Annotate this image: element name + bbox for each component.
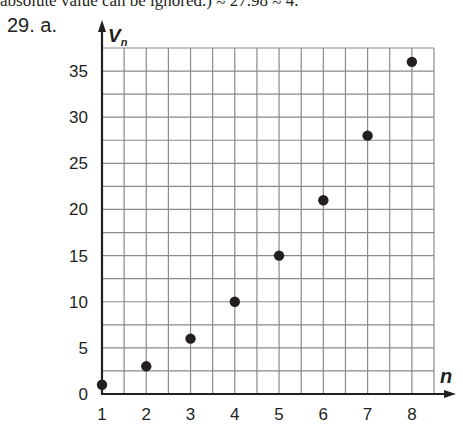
y-tick-label: 25: [69, 154, 88, 173]
y-axis-label: Vn: [108, 25, 128, 48]
x-tick-label: 4: [230, 405, 239, 424]
x-axis-arrow-icon: [444, 390, 456, 398]
x-axis-label: n: [440, 365, 452, 387]
data-point: [362, 130, 372, 140]
y-tick-label: 15: [69, 247, 88, 266]
x-tick-label: 6: [319, 405, 328, 424]
data-point: [274, 250, 284, 260]
data-point: [318, 195, 328, 205]
data-point: [97, 380, 107, 390]
data-point: [141, 361, 151, 371]
data-point: [407, 57, 417, 67]
y-tick-label: 0: [79, 385, 88, 404]
data-point: [230, 297, 240, 307]
x-tick-label: 5: [274, 405, 283, 424]
y-axis-arrow-icon: [98, 20, 106, 32]
grid-lines: [102, 48, 434, 394]
x-tick-label: 2: [142, 405, 151, 424]
scatter-chart: 05101520253035 12345678 Vn n: [0, 0, 463, 427]
y-tick-label: 5: [79, 339, 88, 358]
y-tick-label: 35: [69, 62, 88, 81]
x-tick-label: 7: [363, 405, 372, 424]
x-tick-label: 1: [97, 405, 106, 424]
x-tick-label: 8: [407, 405, 416, 424]
y-tick-labels: 05101520253035: [69, 62, 88, 404]
x-tick-labels: 12345678: [97, 405, 416, 424]
y-tick-label: 10: [69, 293, 88, 312]
x-tick-label: 3: [186, 405, 195, 424]
y-tick-label: 30: [69, 108, 88, 127]
data-point: [185, 333, 195, 343]
y-tick-label: 20: [69, 200, 88, 219]
